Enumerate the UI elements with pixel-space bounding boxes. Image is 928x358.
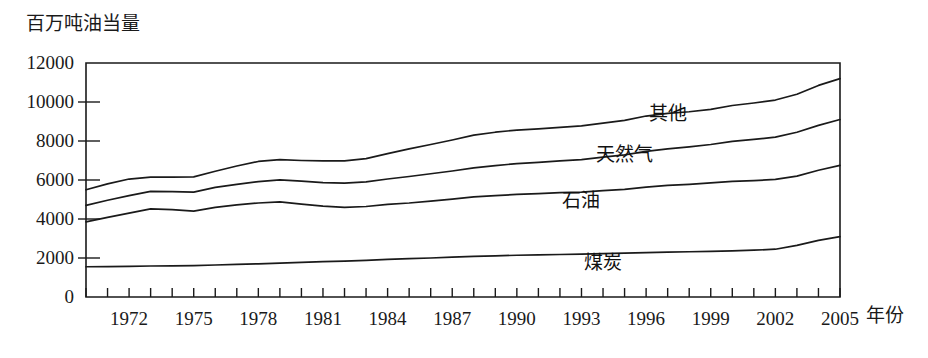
x-tick-label: 1999 bbox=[692, 308, 730, 329]
x-tick-label: 1978 bbox=[239, 308, 277, 329]
series-path-group bbox=[86, 79, 840, 267]
series-label-group: 其他天然气石油煤炭 bbox=[562, 103, 686, 273]
x-tick-label: 1993 bbox=[562, 308, 600, 329]
y-tick-label: 6000 bbox=[36, 169, 74, 190]
x-axis-label: 年份 bbox=[866, 305, 904, 326]
x-tick-label: 1981 bbox=[304, 308, 342, 329]
series-line-其他 bbox=[86, 79, 840, 190]
y-tick-label: 2000 bbox=[36, 247, 74, 268]
chart-canvas: 百万吨油当量 020004000600080001000012000 19721… bbox=[0, 0, 928, 358]
series-label-石油: 石油 bbox=[562, 190, 600, 211]
y-tick-label-group: 020004000600080001000012000 bbox=[27, 52, 75, 307]
x-tick-label-group: 1972197519781981198419871990199319961999… bbox=[110, 308, 859, 329]
y-axis-label: 百万吨油当量 bbox=[26, 13, 140, 34]
series-label-其他: 其他 bbox=[649, 103, 687, 124]
y-tick-label: 4000 bbox=[36, 208, 74, 229]
series-line-石油 bbox=[86, 165, 840, 222]
series-line-天然气 bbox=[86, 120, 840, 206]
energy-consumption-chart: 百万吨油当量 020004000600080001000012000 19721… bbox=[0, 0, 928, 358]
x-tick-label: 2002 bbox=[756, 308, 794, 329]
y-tick-label: 8000 bbox=[36, 130, 74, 151]
x-tick-label: 1987 bbox=[433, 308, 471, 329]
y-tick-label: 0 bbox=[65, 286, 75, 307]
series-label-煤炭: 煤炭 bbox=[584, 252, 622, 273]
y-tick-mark-group bbox=[78, 102, 100, 258]
x-tick-label: 1996 bbox=[627, 308, 665, 329]
series-label-天然气: 天然气 bbox=[596, 144, 653, 165]
x-tick-label: 1975 bbox=[175, 308, 213, 329]
x-tick-label: 1990 bbox=[498, 308, 536, 329]
y-tick-label: 10000 bbox=[27, 91, 75, 112]
x-tick-mark-group bbox=[86, 288, 840, 297]
plot-frame bbox=[86, 63, 840, 297]
x-tick-label: 2005 bbox=[821, 308, 859, 329]
y-tick-label: 12000 bbox=[27, 52, 75, 73]
series-line-煤炭 bbox=[86, 237, 840, 267]
x-tick-label: 1984 bbox=[369, 308, 408, 329]
x-tick-label: 1972 bbox=[110, 308, 148, 329]
